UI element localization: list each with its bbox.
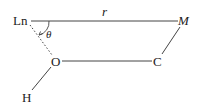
node-label-m: M bbox=[177, 13, 190, 28]
angle-label-theta: θ bbox=[46, 28, 52, 40]
distance-label-r: r bbox=[102, 4, 108, 19]
edge-o-h bbox=[32, 67, 51, 90]
node-label-h: H bbox=[22, 90, 31, 105]
node-label-ln: Ln bbox=[13, 13, 28, 28]
node-label-o: O bbox=[51, 54, 60, 69]
angle-arrowhead-icon bbox=[39, 32, 43, 36]
node-label-c: C bbox=[153, 54, 162, 69]
ln-m-geometry-diagram: Ln M O C H r θ bbox=[0, 0, 205, 109]
edge-m-c bbox=[162, 27, 180, 54]
